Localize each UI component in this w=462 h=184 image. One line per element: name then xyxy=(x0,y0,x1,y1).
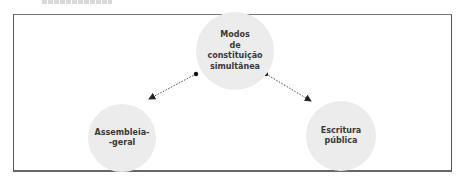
node-escritura-publica: Escritura pública xyxy=(306,101,376,171)
node-label: Escritura pública xyxy=(321,126,362,147)
node-label: Modos de constituição simultânea xyxy=(207,30,262,72)
node-assembleia-geral: Assembleia- -geral xyxy=(88,104,156,172)
edge-center-to-left xyxy=(149,72,198,99)
edge-center-to-right xyxy=(264,72,311,101)
node-modos-constituicao: Modos de constituição simultânea xyxy=(196,12,274,90)
node-label: Assembleia- -geral xyxy=(95,128,150,149)
